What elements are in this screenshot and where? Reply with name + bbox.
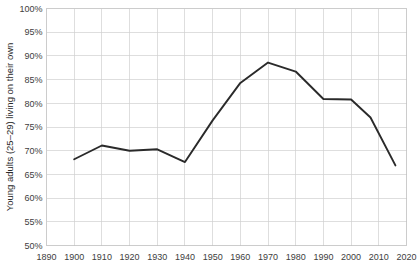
y-tick-label: 80% <box>24 99 42 109</box>
y-tick-label: 75% <box>24 122 42 132</box>
y-tick-label: 100% <box>19 4 42 14</box>
y-tick-label: 70% <box>24 146 42 156</box>
chart-container: Young adults (25–29) living on their own… <box>0 0 420 273</box>
x-tick-label: 1970 <box>258 252 278 262</box>
y-tick-label: 55% <box>24 217 42 227</box>
x-axis-tick-labels: 1890190019101920193019401950196019701980… <box>36 252 416 262</box>
y-tick-label: 90% <box>24 51 42 61</box>
y-axis-label: Young adults (25–29) living on their own <box>4 43 15 212</box>
y-tick-label: 85% <box>24 75 42 85</box>
y-tick-label: 95% <box>24 27 42 37</box>
x-tick-label: 1940 <box>175 252 195 262</box>
x-tick-label: 2010 <box>369 252 389 262</box>
y-tick-label: 50% <box>24 241 42 251</box>
y-tick-label: 60% <box>24 193 42 203</box>
x-tick-label: 1950 <box>203 252 223 262</box>
x-tick-label: 2000 <box>341 252 361 262</box>
line-chart: Young adults (25–29) living on their own… <box>0 0 420 273</box>
y-axis-tick-labels: 50%55%60%65%70%75%80%85%90%95%100% <box>19 4 42 251</box>
y-axis-label-group: Young adults (25–29) living on their own <box>4 43 15 212</box>
x-tick-label: 1910 <box>92 252 112 262</box>
x-tick-label: 1930 <box>147 252 167 262</box>
x-tick-label: 1960 <box>230 252 250 262</box>
horizontal-gridlines <box>47 32 407 222</box>
x-tick-label: 2020 <box>396 252 416 262</box>
x-tick-label: 1900 <box>64 252 84 262</box>
y-tick-label: 65% <box>24 170 42 180</box>
x-tick-label: 1920 <box>120 252 140 262</box>
x-tick-label: 1890 <box>36 252 56 262</box>
x-tick-label: 1990 <box>313 252 333 262</box>
x-tick-label: 1980 <box>286 252 306 262</box>
data-series-line <box>74 63 395 166</box>
